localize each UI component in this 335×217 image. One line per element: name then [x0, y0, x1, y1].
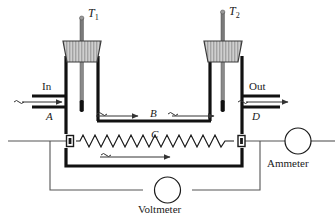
thermometer-right-bulb — [221, 100, 225, 112]
thermometer-right-cap — [221, 10, 225, 14]
stopper-left — [63, 41, 101, 62]
label-thermometer-left: T1 — [88, 6, 99, 22]
voltmeter-symbol — [155, 177, 181, 203]
terminal-left-core — [69, 138, 72, 144]
squiggle-top-right — [168, 113, 178, 116]
ammeter-symbol — [285, 128, 311, 154]
label-voltmeter: Voltmeter — [138, 203, 181, 215]
calorimeter-figure: T1 T2 In Out A B C D Ammeter Voltmeter — [0, 0, 335, 217]
label-inlet: In — [42, 80, 51, 92]
apparatus-drawing — [0, 0, 335, 217]
label-t1-subscript: 1 — [95, 13, 99, 22]
thermometer-left-bulb — [80, 100, 84, 112]
flow-squiggles — [14, 101, 248, 157]
label-thermometer-right: T2 — [229, 4, 240, 20]
thermometer-left-stem-inner — [80, 60, 83, 102]
squiggle-bottom — [101, 154, 111, 157]
stopper-right — [204, 41, 242, 62]
label-t2-subscript: 2 — [236, 11, 240, 20]
label-point-b: B — [150, 107, 157, 119]
label-ammeter: Ammeter — [267, 157, 309, 169]
label-point-a: A — [46, 110, 53, 122]
label-point-d: D — [252, 110, 260, 122]
thermometer-left-cap — [80, 16, 84, 20]
label-t2-letter: T — [229, 4, 236, 18]
thermometer-left — [80, 16, 84, 112]
label-outlet: Out — [249, 80, 266, 92]
terminal-right-core — [240, 138, 243, 144]
label-point-c: C — [151, 128, 158, 140]
thermometer-right-stem-inner — [221, 60, 224, 102]
label-t1-letter: T — [88, 6, 95, 20]
